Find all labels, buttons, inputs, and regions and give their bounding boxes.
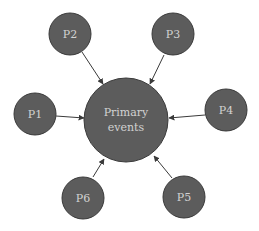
arrow-p2-to-primary (82, 52, 103, 84)
center-node-primary-events: Primary events (84, 78, 168, 162)
primary-events-diagram: Primary events P1P2P3P4P5P6 (0, 0, 259, 231)
primary-events-label-line2: events (108, 121, 145, 134)
arrow-p3-to-primary (150, 55, 164, 84)
node-p4-label: P4 (219, 104, 233, 117)
node-p6: P6 (62, 177, 104, 219)
arrow-p6-to-primary (93, 159, 104, 177)
primary-events-circle (84, 78, 168, 162)
node-p6-label: P6 (76, 192, 90, 205)
arrow-p5-to-primary (154, 156, 172, 178)
primary-events-label-line1: Primary (104, 106, 149, 119)
node-p4: P4 (205, 89, 247, 131)
node-p1-label: P1 (28, 108, 42, 121)
node-p3: P3 (152, 13, 194, 55)
arrow-p4-to-primary (169, 115, 205, 118)
node-p2-label: P2 (63, 28, 77, 41)
node-p2: P2 (49, 13, 91, 55)
node-p5-label: P5 (177, 191, 191, 204)
node-p5: P5 (163, 176, 205, 218)
arrow-p1-to-primary (56, 116, 84, 118)
node-p3-label: P3 (166, 28, 180, 41)
node-p1: P1 (14, 93, 56, 135)
